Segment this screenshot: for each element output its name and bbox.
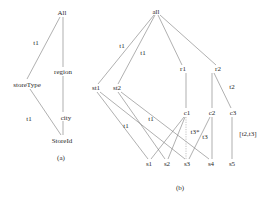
- node-r2: r2: [215, 65, 221, 73]
- node-all: all: [153, 8, 160, 16]
- node-region: region: [54, 68, 72, 76]
- node-all: All: [58, 9, 67, 17]
- node-st1: st1: [92, 84, 101, 92]
- diagram-canvas: All storeType region city StoreId t1 t1 …: [0, 0, 266, 203]
- caption-b: (b): [176, 184, 185, 192]
- edge-c1-s1: [151, 117, 184, 159]
- edge-label-storetype-storeid: t1: [26, 115, 32, 123]
- edge-all-r2: [160, 15, 216, 65]
- caption-a: (a): [57, 154, 65, 162]
- node-s4: s4: [208, 160, 215, 168]
- node-r1: r1: [180, 65, 186, 73]
- edge-label-st1-s3: t1: [123, 122, 129, 130]
- node-s1: s1: [146, 160, 153, 168]
- node-c1: c1: [184, 109, 191, 117]
- node-s3: s3: [184, 160, 191, 168]
- edge-c1-s2: [168, 117, 185, 159]
- node-storeid: StoreId: [52, 137, 73, 145]
- panel-b: all st1 st2 r1 r2 c1 c2 c3 s1 s2 s3 s4 s…: [92, 8, 257, 192]
- edge-all-r1: [158, 15, 182, 65]
- node-city: city: [61, 114, 72, 122]
- edge-label-r2-c3: t2: [229, 83, 235, 91]
- edge-storetype-storeid: [30, 89, 61, 135]
- edge-label-all-st1: t1: [119, 42, 125, 50]
- node-s5: s5: [229, 160, 236, 168]
- node-s2: s2: [164, 160, 171, 168]
- edge-label-all-storetype: t1: [33, 39, 39, 47]
- edge-label-c2-s3: t3: [202, 133, 208, 141]
- panel-a: All storeType region city StoreId t1 t1 …: [13, 9, 73, 162]
- node-storetype: storeType: [13, 81, 41, 89]
- node-c2: c2: [209, 109, 216, 117]
- edge-st2-s4: [121, 92, 209, 159]
- node-c3: c3: [230, 109, 237, 117]
- edge-label-all-st2: t1: [140, 49, 146, 57]
- edge-label-c1-s3: t3*: [191, 128, 200, 136]
- edge-label-st2-s4: t1: [148, 115, 154, 123]
- edge-label-c3-s5: [t2,t3]: [239, 130, 256, 138]
- node-st2: st2: [113, 84, 122, 92]
